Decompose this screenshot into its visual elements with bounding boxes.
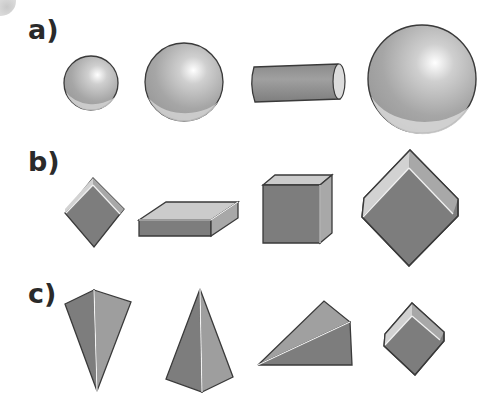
sphere-medium-icon [145,43,223,122]
square-pyramid-icon [166,289,233,392]
cylinder-icon [252,64,345,102]
tetrahedron-inverted-icon [65,290,131,391]
triangular-prism-wedge-icon [258,301,352,365]
sphere-small-icon [64,56,118,110]
cuboid-flat-icon [139,202,238,236]
cube-icon [263,175,332,243]
shapes-canvas [0,0,490,410]
cube-tilted-small-icon [65,178,124,247]
cube-tilted-small-c-icon [384,303,444,375]
cube-tilted-large-icon [362,150,458,266]
sphere-large-icon [368,25,476,134]
